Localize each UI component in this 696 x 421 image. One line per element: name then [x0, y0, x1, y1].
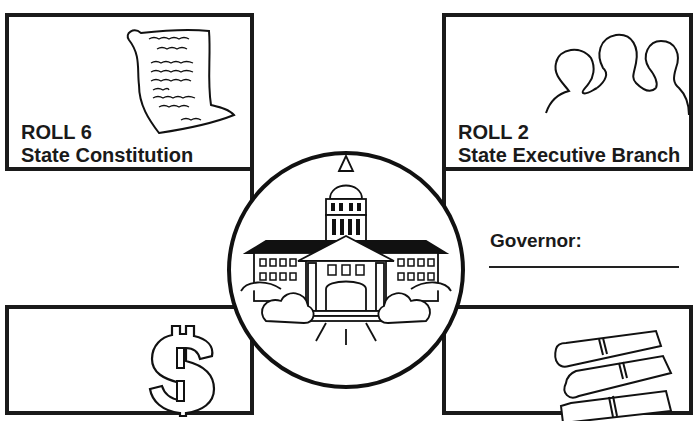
- roll-number: ROLL 6: [21, 121, 193, 144]
- roll-number: ROLL 2: [458, 121, 680, 144]
- panel-title: State Executive Branch: [458, 144, 680, 167]
- panel-bottom-left: [5, 305, 254, 415]
- panel-title: State Constitution: [21, 144, 193, 167]
- panel-label: ROLL 2 State Executive Branch: [458, 121, 680, 167]
- dollar-sign-icon: [142, 321, 222, 411]
- people-silhouettes-icon: [541, 33, 691, 118]
- panel-label: ROLL 6 State Constitution: [21, 121, 193, 167]
- rolled-scrolls-icon: [551, 331, 681, 421]
- panel-state-constitution: ROLL 6 State Constitution: [5, 13, 254, 171]
- panel-state-executive-branch: ROLL 2 State Executive Branch: [442, 13, 693, 171]
- capitol-medallion: [226, 151, 466, 391]
- scroll-document-icon: [119, 25, 239, 135]
- governor-label: Governor:: [490, 230, 582, 252]
- panel-bottom-right: [442, 305, 693, 415]
- governor-answer-line[interactable]: [489, 266, 679, 268]
